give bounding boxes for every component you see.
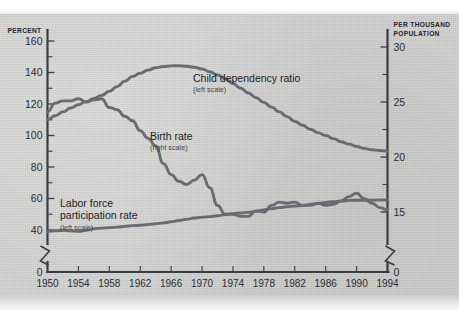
annotation-label-birth-rate: Birth rate: [150, 130, 193, 142]
x-axis-tick-label: 1970: [191, 278, 214, 289]
annotation-scale-note-child-dependency: (left scale): [193, 85, 226, 94]
right-axis-tick-label: 30: [394, 41, 406, 53]
annotation-label2-labor-force: participation rate: [60, 209, 138, 221]
annotation-scale-note-labor-force: (left scale): [60, 223, 93, 232]
labels-group: 0406080100120140160015202530195019541958…: [8, 21, 451, 289]
x-axis-tick-label: 1958: [98, 278, 121, 289]
left-axis-tick-label: 100: [25, 129, 43, 141]
left-axis-tick-label: 120: [25, 98, 43, 110]
left-axis-tick-label: 160: [25, 35, 43, 47]
left-axis-tick-label: 40: [31, 224, 43, 236]
left-axis-tick-label: 140: [25, 66, 43, 78]
x-axis-tick-label: 1962: [129, 278, 152, 289]
annotation-label-child-dependency: Child dependency ratio: [193, 72, 301, 84]
right-axis-tick-label: 25: [394, 96, 406, 108]
left-axis-tick-label: 60: [31, 192, 43, 204]
x-axis-tick-label: 1978: [253, 278, 276, 289]
chart-figure: 0406080100120140160015202530195019541958…: [0, 0, 459, 310]
x-axis-tick-label: 1986: [315, 278, 338, 289]
right-axis-title-line1: PER THOUSAND: [394, 21, 451, 28]
x-axis-tick-label: 1990: [345, 278, 368, 289]
x-axis-tick-label: 1982: [284, 278, 307, 289]
line-chart: 0406080100120140160015202530195019541958…: [0, 0, 459, 310]
right-axis-tick-label: 20: [394, 151, 406, 163]
right-axis-tick-label: 0: [394, 266, 400, 278]
left-axis-title: PERCENT: [8, 27, 42, 34]
x-axis-tick-label: 1974: [222, 278, 245, 289]
right-axis-tick-label: 15: [394, 206, 406, 218]
left-axis-tick-label: 80: [31, 161, 43, 173]
x-axis-tick-label: 1950: [36, 278, 59, 289]
x-axis-tick-label: 1994: [376, 278, 399, 289]
axes-group: [41, 30, 395, 272]
annotation-scale-note-birth-rate: (right scale): [150, 143, 188, 152]
annotation-label-labor-force: Labor force: [60, 197, 113, 209]
x-axis-tick-label: 1954: [67, 278, 90, 289]
right-axis-title-line2: POPULATION: [394, 30, 440, 37]
x-axis-tick-label: 1966: [160, 278, 183, 289]
left-axis-tick-label: 0: [37, 266, 43, 278]
